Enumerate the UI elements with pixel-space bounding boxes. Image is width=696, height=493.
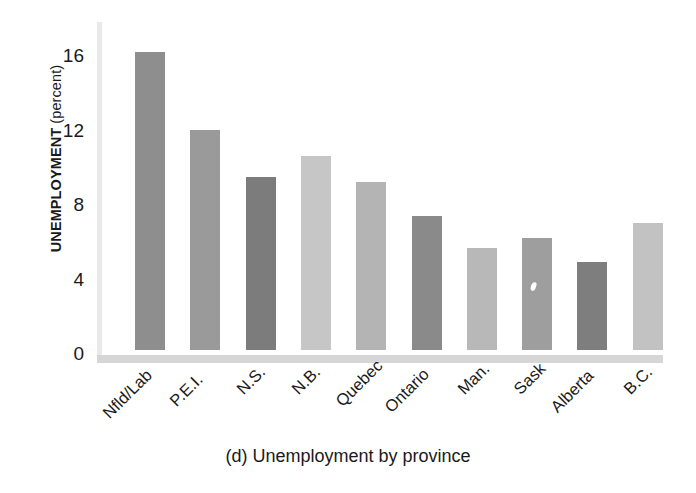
x-tick-label-sask: Sask	[510, 360, 549, 399]
x-axis-tick-labels: Nfld/LabP.E.I.N.S.N.B.QuebecOntarioMan.S…	[97, 358, 663, 438]
x-tick-label-nfld-lab: Nfld/Lab	[99, 365, 156, 422]
bar-b-c	[633, 223, 663, 350]
y-axis-line	[97, 22, 102, 358]
x-tick-label-n-b: N.B.	[288, 363, 324, 399]
x-tick-label-ontario: Ontario	[381, 365, 433, 417]
bar-p-e-i	[190, 130, 220, 350]
x-tick-label-quebec: Quebec	[332, 356, 386, 410]
bar-alberta	[577, 262, 607, 350]
y-tick-label-8: 8	[44, 195, 84, 214]
bar-ontario	[412, 216, 442, 350]
y-tick-label-4: 4	[44, 270, 84, 289]
bar-nfld-lab	[135, 52, 165, 350]
y-tick-label-16: 16	[44, 46, 84, 65]
bar-quebec	[356, 182, 386, 350]
bar-sask	[522, 238, 552, 350]
x-tick-label-man: Man.	[454, 360, 493, 399]
x-tick-label-b-c: B.C.	[620, 363, 656, 399]
x-tick-label-p-e-i: P.E.I.	[166, 370, 206, 410]
figure-caption: (d) Unemployment by province	[0, 446, 696, 467]
x-tick-label-alberta: Alberta	[547, 366, 597, 416]
bar-n-b	[301, 156, 331, 350]
y-axis-tick-labels: 0481216	[38, 0, 84, 493]
bar-n-s	[246, 177, 276, 350]
unemployment-bar-chart-figure: UNEMPLOYMENT (percent) 0481216 Nfld/LabP…	[0, 0, 696, 493]
bar-man	[467, 248, 497, 350]
y-tick-label-0: 0	[44, 344, 84, 363]
print-artifact-speck	[530, 282, 538, 292]
x-tick-label-n-s: N.S.	[233, 363, 269, 399]
y-tick-label-12: 12	[44, 121, 84, 140]
plot-area	[97, 22, 663, 358]
